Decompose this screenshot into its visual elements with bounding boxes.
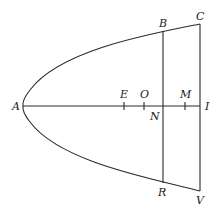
- label-V: V: [196, 194, 205, 207]
- label-I: I: [204, 100, 210, 113]
- parabola-figure: A B C E O M N I R V: [0, 0, 221, 214]
- label-A: A: [11, 100, 20, 113]
- parabola-curve: [23, 24, 200, 191]
- label-B: B: [158, 17, 167, 30]
- diagram-canvas: A B C E O M N I R V: [0, 0, 221, 214]
- label-O: O: [140, 88, 149, 101]
- label-C: C: [196, 10, 205, 23]
- label-N: N: [149, 110, 160, 123]
- label-E: E: [119, 88, 128, 101]
- label-R: R: [157, 186, 166, 199]
- label-M: M: [179, 88, 192, 101]
